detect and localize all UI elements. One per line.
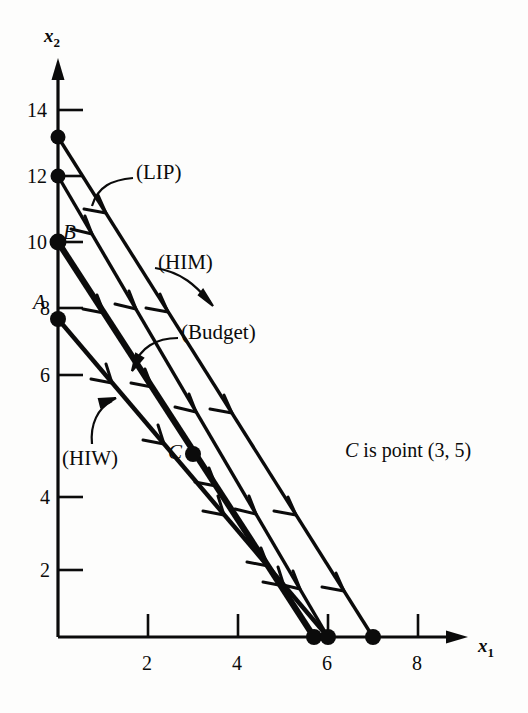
x-axis-label: x1: [478, 636, 494, 659]
note-c-text: is point (3, 5): [358, 439, 471, 461]
x-tick-label-8: 8: [412, 653, 422, 673]
leader-hiw-arrowhead: [99, 398, 116, 407]
y-tick-label-10: 10: [27, 232, 47, 252]
point-label-c: C: [168, 442, 182, 463]
leader-him-arrowhead: [199, 290, 213, 306]
dot-point-a: [50, 311, 66, 327]
x-tick-label-2: 2: [142, 653, 152, 673]
constraint-line-hiw: [58, 319, 328, 637]
x-tick-label-4: 4: [232, 653, 242, 673]
curve-label-lip: (LIP): [136, 162, 182, 183]
dot-him-y-intercept: [51, 169, 66, 184]
y-tick-label-14: 14: [27, 100, 47, 120]
constraint-line-him: [58, 176, 328, 637]
y-tick-label-12: 12: [27, 166, 47, 186]
x-axis-label-base: x: [478, 635, 488, 656]
y-tick-label-2: 2: [40, 560, 50, 580]
x-tick-label-6: 6: [322, 653, 332, 673]
linear-programming-constraint-figure: x2 x1 14 12 10 8 6 4 2 2 4 6 8 B A C (LI…: [0, 0, 528, 713]
point-label-a: A: [33, 292, 46, 313]
y-axis-label-base: x: [44, 25, 54, 46]
curve-label-hiw: (HIW): [62, 448, 118, 469]
x-axis-arrowhead: [446, 631, 468, 644]
constraint-line-lip: [58, 137, 373, 637]
dot-point-c: [185, 446, 201, 462]
dot-lip-y-intercept: [51, 130, 66, 145]
plot-canvas: [0, 0, 528, 713]
dot-budget-x-intercept: [306, 629, 322, 645]
y-axis-label-sub: 2: [54, 35, 61, 50]
dot-lip-x-intercept: [365, 629, 381, 645]
curve-label-him: (HIM): [158, 252, 213, 273]
note-c-coordinates: C is point (3, 5): [345, 440, 471, 460]
y-tick-label-4: 4: [40, 487, 50, 507]
y-axis-arrowhead: [52, 58, 65, 80]
dot-him-hiw-x-intercept: [320, 629, 336, 645]
y-axis-label: x2: [44, 26, 60, 49]
note-c-symbol: C: [345, 439, 358, 461]
curve-label-budget: (Budget): [181, 322, 256, 343]
y-tick-label-6: 6: [40, 365, 50, 385]
x-axis-label-sub: 1: [488, 645, 495, 660]
point-label-b: B: [63, 222, 76, 243]
